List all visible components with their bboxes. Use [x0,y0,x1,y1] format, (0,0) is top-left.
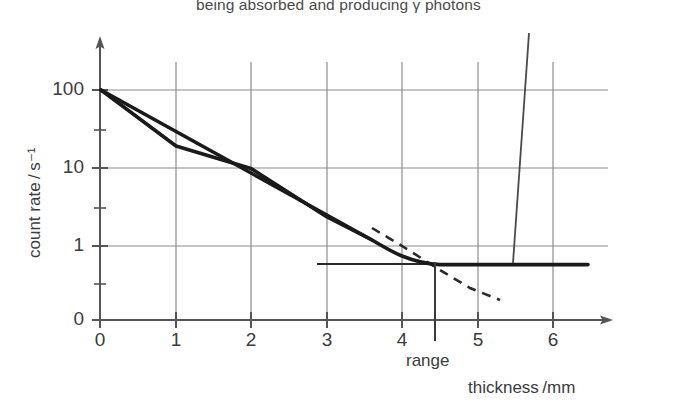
y-axis [96,36,105,320]
x-tick-label-0: 0 [85,329,115,351]
x-axis-title: thickness /mm [468,378,575,398]
exponential-decay-segment [101,90,372,240]
x-tick-label-2: 2 [236,329,266,351]
chart-canvas [0,0,685,417]
x-tick-label-5: 5 [463,329,493,351]
x-tick-label-1: 1 [161,329,191,351]
x-tick-label-3: 3 [312,329,342,351]
y-tick-label-0: 0 [22,308,84,330]
chart-figure: being absorbed and producing γ photons [0,0,685,417]
x-tick-label-4: 4 [387,329,417,351]
y-tick-label-100: 100 [22,78,84,100]
range-marker-label: range [406,351,449,371]
y-axis-title: count rate / s⁻¹ [24,148,45,258]
x-tick-label-6: 6 [538,329,568,351]
gridlines-vertical [176,62,553,320]
annotation-leader-line [513,33,529,263]
